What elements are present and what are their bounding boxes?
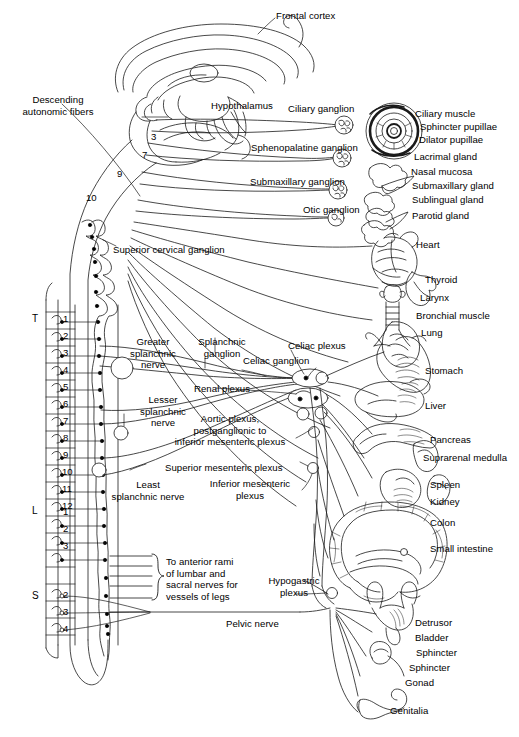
label-hypogastric-plexus: Hypogastric plexus [258, 575, 330, 598]
organ-label-submaxillary-gland: Submaxillary gland [412, 180, 494, 192]
label-ciliary-ganglion: Ciliary ganglion [288, 103, 354, 115]
label-pelvic-nerve: Pelvic nerve [226, 618, 279, 630]
segment-T3: 3 [63, 347, 68, 358]
organ-label-larynx: Larynx [420, 292, 449, 304]
label-to-anterior-rami: To anterior rami of lumbar and sacral ne… [166, 556, 238, 602]
cranial-nerve-number-10: 10 [86, 192, 97, 203]
organ-label-liver: Liver [425, 400, 446, 412]
label-inferior-mesenteric-plexus: Inferior mesenteric plexus [198, 478, 302, 501]
segment-T5: 5 [63, 381, 68, 392]
label-aortic-plexus: Aortic plexus, postganglionic to inferio… [165, 413, 295, 448]
organ-label-detrusor: Detrusor [415, 617, 452, 629]
lung-organ [374, 322, 420, 368]
liver-organ [355, 379, 430, 422]
segment-T8: 8 [63, 432, 68, 443]
gonad-organ [370, 641, 404, 676]
small-intestine-organ [350, 549, 421, 585]
organ-label-sphincter-1: Sphincter [416, 647, 457, 659]
label-frontal-cortex: Frontal cortex [276, 10, 335, 22]
segment-T9: 9 [63, 449, 68, 460]
organ-label-sphincter-2: Sphincter [409, 662, 450, 674]
label-renal-plexus: Renal plexus [194, 383, 250, 395]
organ-label-dilator-pupillae: Dilator pupillae [419, 134, 483, 146]
segment-T2: 2 [63, 330, 68, 341]
organ-label-kidney: Kidney [430, 496, 460, 508]
segment-T7: 7 [63, 415, 68, 426]
label-greater-splanchnic-nerve: Greater splanchnic nerve [118, 336, 188, 371]
organ-label-ciliary-muscle: Ciliary muscle [415, 108, 475, 120]
segment-L3: 3 [63, 540, 68, 551]
segment-T4: 4 [63, 364, 68, 375]
organ-label-sphincter-pupillae: Sphincter pupillae [420, 121, 497, 133]
segment-L2: 2 [63, 523, 68, 534]
organ-label-gonad: Gonad [405, 677, 434, 689]
organ-label-bronchial-muscle: Bronchial muscle [416, 310, 490, 322]
spinal-region-S: S [32, 590, 39, 601]
diagram-canvas: Frontal cortex Hypothalamus Descending a… [0, 0, 519, 737]
organ-label-stomach: Stomach [425, 365, 463, 377]
label-superior-cervical-ganglion: Superior cervical ganglion [113, 244, 225, 256]
organ-label-sublingual-gland: Sublingual gland [412, 194, 484, 206]
organ-label-thyroid: Thyroid [425, 274, 457, 286]
heart-organ [372, 232, 418, 286]
label-hypothalamus: Hypothalamus [211, 100, 273, 112]
label-otic-ganglion: Otic ganglion [303, 204, 360, 216]
organ-label-colon: Colon [430, 517, 455, 529]
segment-T6: 6 [63, 398, 68, 409]
organ-label-lacrimal-gland: Lacrimal gland [414, 151, 477, 163]
organ-label-small-intestine: Small intestine [430, 543, 493, 555]
label-celiac-ganglion: Celiac ganglion [243, 355, 309, 367]
segment-L1: 1 [63, 506, 68, 517]
organ-label-lung: Lung [421, 327, 443, 339]
organ-label-suprarenal-medulla: Suprarenal medulla [423, 452, 507, 464]
segment-T10: 10 [62, 466, 73, 477]
organ-label-genitalia: Genitalia [390, 705, 428, 717]
spinal-region-L: L [32, 505, 38, 516]
segment-T11: 11 [62, 483, 72, 494]
organ-label-spleen: Spleen [430, 479, 460, 491]
cranial-nerve-number-9: 9 [117, 168, 122, 179]
organ-label-heart: Heart [416, 239, 440, 251]
segment-S4: 4 [63, 623, 68, 634]
spinal-region-T: T [32, 313, 38, 324]
segment-T1: 1 [63, 313, 68, 324]
label-sphenopalatine-ganglion: Sphenopalatine ganglion [251, 142, 358, 154]
pelvic-nerve-fibers [330, 608, 376, 712]
sympathetic-chain [82, 220, 117, 660]
organ-label-pancreas: Pancreas [430, 434, 471, 446]
cranial-nerve-number-7: 7 [142, 149, 147, 160]
segment-S2: 2 [63, 589, 68, 600]
organ-label-bladder: Bladder [415, 632, 448, 644]
organ-label-parotid-gland: Parotid gland [412, 210, 469, 222]
label-descending-autonomic-fibers: Descending autonomic fibers [8, 94, 108, 117]
segment-S3: 3 [63, 606, 68, 617]
label-superior-mesenteric-plexus: Superior mesenteric plexus [165, 462, 283, 474]
label-celiac-plexus: Celiac plexus [288, 340, 346, 352]
label-submaxillary-ganglion: Submaxillary ganglion [250, 176, 345, 188]
pancreas-organ [353, 424, 436, 454]
label-least-splanchnic-nerve: Least splanchnic nerve [100, 479, 196, 502]
organ-label-nasal-mucosa: Nasal mucosa [411, 166, 472, 178]
cranial-nerve-number-3: 3 [151, 131, 156, 142]
